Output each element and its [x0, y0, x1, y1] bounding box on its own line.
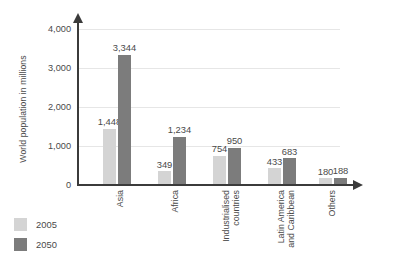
- bar-value-label: 349: [157, 159, 173, 170]
- bar-value-label: 950: [227, 135, 243, 146]
- bar-value-label: 188: [333, 165, 349, 176]
- x-axis-label-line: countries: [232, 190, 242, 242]
- x-axis-arrow-icon: [353, 180, 363, 190]
- x-axis-label-asia: Asia: [116, 190, 126, 207]
- bar-2050-asia[interactable]: 3,344: [118, 55, 131, 185]
- legend-label: 2050: [36, 239, 57, 250]
- bar-value-label: 1,234: [168, 124, 191, 135]
- y-tick-label: 2,000: [25, 102, 71, 112]
- x-axis-line: [78, 184, 354, 186]
- legend-swatch-icon: [14, 218, 27, 231]
- bar-2005-africa[interactable]: 349: [158, 171, 171, 185]
- y-tick-label: 4,000: [25, 24, 71, 34]
- bar-2050-industrialised-countries[interactable]: 950: [228, 148, 241, 185]
- bar-value-label: 754: [212, 143, 228, 154]
- y-axis-tick-labels: 4,000 3,000 2,000 1,000 0: [25, 29, 71, 185]
- plot-area: 1,448 3,344 349 1,234 754: [79, 29, 340, 185]
- bar-2005-asia[interactable]: 1,448: [103, 129, 116, 186]
- legend-swatch-icon: [14, 238, 27, 251]
- y-tick-label: 3,000: [25, 63, 71, 73]
- bar-value-label: 683: [282, 146, 298, 157]
- legend-item-2005[interactable]: 2005: [14, 214, 57, 234]
- x-axis-label-others: Others: [328, 190, 338, 216]
- x-axis-label-line: and Caribbean: [287, 190, 297, 248]
- x-axis-label-line: Others: [328, 190, 338, 216]
- bar-value-label: 180: [318, 166, 334, 177]
- bar-value-label: 3,344: [113, 42, 136, 53]
- legend-item-2050[interactable]: 2050: [14, 234, 57, 254]
- bar-2050-africa[interactable]: 1,234: [173, 137, 186, 185]
- y-tick-label: 0: [25, 180, 71, 190]
- bar-2005-latin-america-and-caribbean[interactable]: 433: [268, 168, 281, 185]
- bar-value-label: 433: [267, 156, 283, 167]
- x-axis-label-line: Africa: [171, 190, 181, 213]
- bar-2005-industrialised-countries[interactable]: 754: [213, 156, 226, 185]
- x-axis-label-africa: Africa: [171, 190, 181, 213]
- y-tick-label: 1,000: [25, 141, 71, 151]
- bar-2050-latin-america-and-caribbean[interactable]: 683: [283, 158, 296, 185]
- x-axis-label-latin-america-and-caribbean: Latin America and Caribbean: [277, 190, 296, 248]
- y-axis-arrow-icon: [73, 13, 83, 23]
- bar-chart-figure: World population in millions 4,000 3,000…: [0, 0, 400, 270]
- x-axis-label-line: Asia: [116, 190, 126, 207]
- x-axis-label-industrialised-countries: Industrialised countries: [222, 190, 241, 242]
- legend-label: 2005: [36, 219, 57, 230]
- y-axis-line: [77, 21, 79, 186]
- legend: 2005 2050: [14, 214, 57, 254]
